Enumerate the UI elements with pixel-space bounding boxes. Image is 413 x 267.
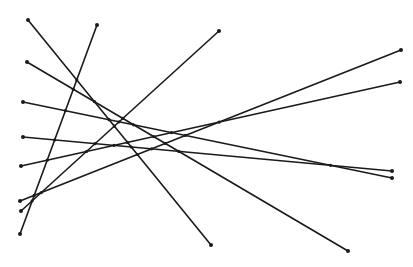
intersection-dot — [329, 164, 332, 167]
intersection-dot — [31, 199, 34, 202]
endpoint-dot — [209, 243, 213, 247]
segment-s1 — [28, 20, 211, 245]
endpoint-dot — [19, 164, 23, 168]
intersection-dot — [152, 135, 155, 138]
intersection-dot — [218, 121, 221, 124]
endpoint-dot — [390, 169, 394, 173]
endpoint-dot — [18, 232, 22, 236]
intersection-dot — [53, 138, 56, 141]
endpoint-dot — [95, 23, 99, 27]
intersection-dot — [85, 150, 88, 153]
intersection-dot — [93, 100, 96, 103]
segments-layer — [20, 20, 401, 251]
endpoint-dot — [18, 199, 22, 203]
intersection-dot — [118, 120, 121, 123]
intersection-dot — [46, 159, 49, 162]
intersection-dot — [132, 123, 135, 126]
intersection-dot — [112, 144, 115, 147]
intersection-dot — [130, 145, 133, 148]
intersection-dot — [108, 118, 111, 121]
intersection-dot — [126, 141, 129, 144]
segment-s6 — [21, 82, 400, 166]
intersection-dot — [33, 194, 36, 197]
endpoint-dot — [21, 100, 25, 104]
endpoint-dot — [19, 209, 23, 213]
endpoint-dot — [217, 29, 221, 33]
endpoint-dot — [26, 18, 30, 22]
endpoint-dot — [346, 249, 350, 253]
intersection-dot — [113, 125, 116, 128]
endpoint-dot — [21, 135, 25, 139]
intersection-dot — [177, 150, 180, 153]
intersection-dot — [121, 117, 124, 120]
endpoint-dot — [398, 80, 402, 84]
intersection-dot — [64, 109, 67, 112]
line-segments-diagram — [0, 0, 413, 267]
intersection-dot — [184, 134, 187, 137]
segment-s5 — [20, 50, 401, 201]
endpoint-dot — [390, 176, 394, 180]
intersection-dot — [72, 88, 75, 91]
endpoint-dot — [399, 48, 403, 52]
intersection-dot — [75, 78, 78, 81]
intersection-dot — [164, 142, 167, 145]
intersection-dot — [150, 147, 153, 150]
intersection-dot — [170, 131, 173, 134]
intersection-dot — [136, 153, 139, 156]
points-layer — [18, 18, 403, 253]
endpoint-dot — [25, 60, 29, 64]
intersection-dot — [94, 142, 97, 145]
intersection-dot — [40, 191, 43, 194]
